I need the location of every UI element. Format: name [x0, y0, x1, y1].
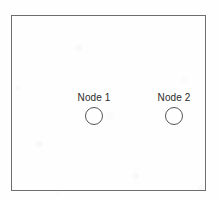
node-1-label: Node 1 — [68, 92, 120, 104]
diagram-page: Node 1 Node 2 — [0, 0, 219, 200]
node-2-label: Node 2 — [148, 92, 200, 104]
node-1-circle-icon[interactable] — [85, 107, 103, 125]
node-2[interactable]: Node 2 — [148, 92, 200, 125]
node-2-circle-icon[interactable] — [165, 107, 183, 125]
diagram-frame: Node 1 Node 2 — [11, 15, 206, 191]
node-1[interactable]: Node 1 — [68, 92, 120, 125]
